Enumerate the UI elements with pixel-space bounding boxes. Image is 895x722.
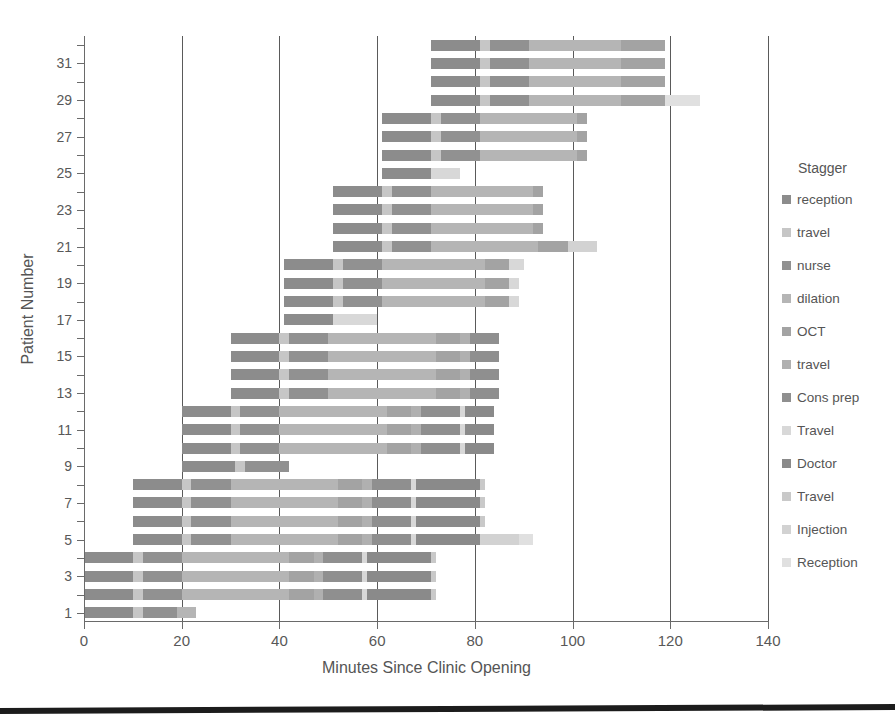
y-tick-4 xyxy=(77,558,84,559)
bar-segment-oct xyxy=(436,351,460,362)
bar-segment-reception xyxy=(665,95,699,106)
bar-segment-oct xyxy=(289,571,313,582)
legend-item-dilation: dilation xyxy=(782,289,895,307)
bar-segment-dilation xyxy=(231,497,338,508)
bar-segment-reception xyxy=(231,333,280,344)
y-tick-26 xyxy=(77,155,84,156)
legend-item-reception: reception xyxy=(782,190,895,208)
gridline-x-120 xyxy=(670,36,671,622)
bar-segment-oct xyxy=(621,58,665,69)
legend-swatch-icon xyxy=(782,195,791,204)
legend-swatch-icon xyxy=(782,459,791,468)
y-tick-18 xyxy=(77,302,84,303)
bar-segment-nurse xyxy=(343,278,382,289)
bar-segment-cons-prep xyxy=(323,552,362,563)
bar-segment-travel xyxy=(362,534,372,545)
bar-segment-oct xyxy=(538,241,567,252)
bar-segment-doctor xyxy=(367,589,431,600)
bar-segment-nurse xyxy=(343,259,382,270)
bar-segment-dilation xyxy=(328,369,435,380)
bar-segment-travel xyxy=(133,552,143,563)
bar-segment-travel xyxy=(333,278,343,289)
bar-segment-nurse xyxy=(392,186,431,197)
bar-segment-dilation xyxy=(182,589,289,600)
legend-swatch-icon xyxy=(782,360,791,369)
bar-segment-nurse xyxy=(490,95,529,106)
bar-segment-doctor xyxy=(367,552,431,563)
bar-segment-travel xyxy=(231,406,241,417)
bar-segment-oct xyxy=(533,186,543,197)
legend-item-label: Reception xyxy=(797,555,858,570)
y-axis-title: Patient Number xyxy=(19,209,37,409)
bar-segment-reception xyxy=(431,76,480,87)
bar-segment-reception xyxy=(182,443,231,454)
bar-segment-reception xyxy=(333,186,382,197)
bar-segment-cons-prep xyxy=(421,443,460,454)
bar-segment-nurse xyxy=(240,443,279,454)
bar-segment-oct xyxy=(485,296,509,307)
bar-segment-travel xyxy=(182,534,192,545)
bar-segment-nurse xyxy=(289,333,328,344)
bar-segment-travel xyxy=(411,443,421,454)
bar-segment-travel xyxy=(382,223,392,234)
x-tick-label-120: 120 xyxy=(658,632,683,649)
bar-segment-dilation xyxy=(431,204,534,215)
bar-segment-dilation xyxy=(231,534,338,545)
x-axis-line xyxy=(84,621,769,622)
bar-segment-dilation xyxy=(529,95,622,106)
bar-segment-oct xyxy=(485,278,509,289)
bar-segment-travel xyxy=(480,40,490,51)
bar-segment-reception xyxy=(182,406,231,417)
bar-segment-cons-prep xyxy=(421,406,460,417)
x-tick-label-20: 20 xyxy=(173,632,190,649)
y-tick-7 xyxy=(77,503,84,504)
y-tick-31 xyxy=(77,63,84,64)
bar-segment-reception xyxy=(182,461,236,472)
legend-title: Stagger xyxy=(798,160,895,176)
y-tick-label-29: 29 xyxy=(56,92,72,108)
bar-segment-reception xyxy=(333,204,382,215)
bar-segment-nurse xyxy=(289,369,328,380)
y-tick-label-31: 31 xyxy=(56,55,72,71)
bar-segment-cons-prep xyxy=(372,534,411,545)
bar-segment-travel xyxy=(333,314,377,325)
bar-segment-reception xyxy=(133,479,182,490)
bar-segment-dilation xyxy=(279,443,386,454)
y-tick-12 xyxy=(77,411,84,412)
bar-segment-travel xyxy=(314,552,324,563)
bar-segment-reception xyxy=(333,241,382,252)
bar-segment-travel xyxy=(362,516,372,527)
bar-segment-travel xyxy=(182,479,192,490)
y-tick-2 xyxy=(77,595,84,596)
bar-segment-oct xyxy=(577,113,587,124)
legend-item-label: Travel xyxy=(797,423,834,438)
bar-segment-oct xyxy=(621,95,665,106)
bar-segment-doctor xyxy=(416,534,480,545)
scan-edge-artifact xyxy=(0,704,895,714)
bar-segment-oct xyxy=(436,333,460,344)
legend-swatch-icon xyxy=(782,426,791,435)
x-tick-0 xyxy=(84,622,85,629)
bar-segment-nurse xyxy=(245,461,289,472)
bar-segment-travel xyxy=(431,589,436,600)
bar-segment-nurse xyxy=(441,131,480,142)
y-tick-label-3: 3 xyxy=(64,568,72,584)
legend-swatch-icon xyxy=(782,393,791,402)
y-tick-11 xyxy=(77,430,84,431)
y-tick-10 xyxy=(77,448,84,449)
bar-segment-reception xyxy=(333,223,382,234)
y-tick-label-13: 13 xyxy=(56,385,72,401)
bar-segment-oct xyxy=(338,479,362,490)
y-tick-label-7: 7 xyxy=(64,495,72,511)
y-tick-25 xyxy=(77,173,84,174)
bar-segment-cons-prep xyxy=(323,589,362,600)
bar-segment-travel xyxy=(279,351,289,362)
bar-segment-travel xyxy=(314,589,324,600)
bar-segment-reception xyxy=(284,296,333,307)
bar-segment-nurse xyxy=(191,534,230,545)
bar-segment-travel xyxy=(480,76,490,87)
y-tick-23 xyxy=(77,210,84,211)
bar-segment-doctor xyxy=(416,516,480,527)
legend-item-cons-prep: Cons prep xyxy=(782,388,895,406)
bar-segment-nurse xyxy=(392,241,431,252)
